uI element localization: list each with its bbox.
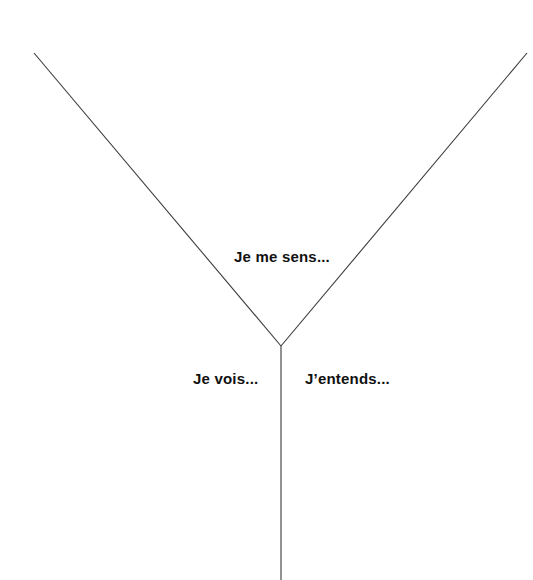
section-label-see: Je vois... (193, 370, 258, 387)
section-label-feel: Je me sens... (234, 248, 330, 265)
y-chart-diagram (0, 0, 533, 580)
right-arm-line (281, 53, 527, 346)
section-label-hear: J’entends... (305, 370, 390, 387)
left-arm-line (34, 53, 281, 346)
